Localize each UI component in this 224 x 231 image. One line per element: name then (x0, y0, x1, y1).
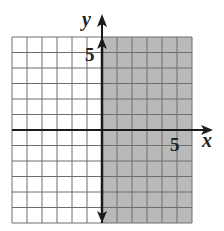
x-axis-label: x (201, 129, 212, 151)
coordinate-graph: y 5 x 5 (0, 0, 224, 231)
y-tick-label: 5 (85, 44, 95, 65)
x-tick-label: 5 (170, 134, 180, 155)
y-axis-label: y (80, 8, 91, 31)
